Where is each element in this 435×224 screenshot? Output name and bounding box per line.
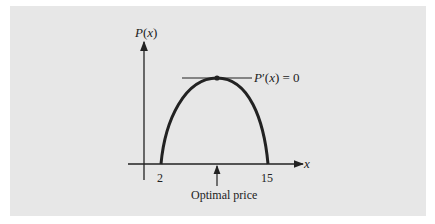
y-axis-label: P(x): [134, 25, 157, 40]
optimal-price-label: Optimal price: [191, 188, 257, 202]
profit-curve: [161, 78, 268, 164]
x-tick-15: 15: [261, 171, 273, 185]
x-tick-2: 2: [157, 171, 163, 185]
profit-curve-diagram: P(x) x P′(x) = 0 2 15 Optimal price: [0, 0, 435, 224]
x-axis-label: x: [303, 156, 310, 171]
max-point: [214, 75, 219, 80]
tangent-label: P′(x) = 0: [253, 70, 300, 85]
